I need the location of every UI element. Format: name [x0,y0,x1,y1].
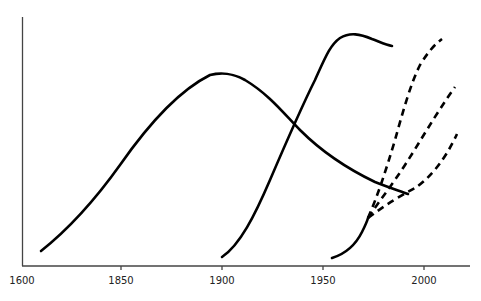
curve-wave-3-projection-mid [368,87,455,218]
tick-label-1900: 1900 [209,275,234,286]
curve-wave-3 [332,218,368,258]
x-tick-labels: 1600 1850 1900 1950 2000 [9,275,436,286]
tick-label-1950: 1950 [310,275,335,286]
tick-label-2000: 2000 [411,275,436,286]
tick-label-1600: 1600 [9,275,34,286]
curve-wave-3-projection-low [368,134,457,218]
curve-wave-1 [41,73,408,251]
chart: 1600 1850 1900 1950 2000 [0,0,481,301]
curve-wave-3-projection-high [368,39,442,218]
tick-label-1850: 1850 [108,275,133,286]
